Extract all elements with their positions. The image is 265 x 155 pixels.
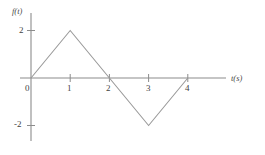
x-axis-label: t(s)	[231, 74, 242, 83]
x-tick-label-0: 0	[25, 84, 30, 93]
figure-container: f(t) t(s) 0 1 2 3 4 2 -2	[0, 0, 265, 155]
y-axis-label: f(t)	[12, 7, 22, 16]
y-tick-label-2: 2	[19, 26, 24, 35]
x-tick-label-4: 4	[185, 84, 190, 93]
x-tick-label-2: 2	[106, 84, 111, 93]
x-tick-label-3: 3	[146, 84, 151, 93]
x-tick-label-1: 1	[67, 84, 72, 93]
plot-canvas	[0, 0, 265, 155]
y-tick-label-minus-2: -2	[14, 120, 22, 129]
